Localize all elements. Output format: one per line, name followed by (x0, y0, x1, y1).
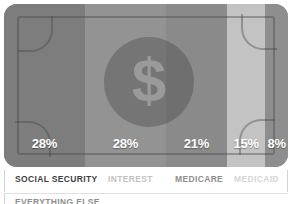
percent-label-interest: 28% (85, 136, 166, 151)
percent-label-medicaid: 15% (227, 136, 265, 151)
dollar-medallion: $ (104, 37, 194, 127)
percent-label-row: 28% 28% 21% 15% 8% (4, 131, 288, 151)
legend-item-interest[interactable]: INTEREST (108, 174, 153, 184)
percent-label-everything-else: 8% (265, 136, 288, 151)
legend-item-everything-else[interactable]: EVERYTHING ELSE (15, 197, 100, 204)
stacked-bar-dollar-bill-chart: $ 28% 28% 21% 15% 8% (4, 4, 288, 167)
percent-label-medicare: 21% (166, 136, 227, 151)
dollar-sign-icon: $ (132, 49, 166, 111)
legend-item-medicare[interactable]: MEDICARE (175, 174, 223, 184)
legend-row-primary: SOCIAL SECURITY INTEREST MEDICARE MEDICA… (4, 170, 288, 192)
legend-item-social-security[interactable]: SOCIAL SECURITY (15, 174, 98, 184)
legend-item-medicaid[interactable]: MEDICAID (234, 174, 279, 184)
legend-row-secondary: EVERYTHING ELSE (4, 193, 288, 204)
percent-label-social-security: 28% (4, 136, 85, 151)
